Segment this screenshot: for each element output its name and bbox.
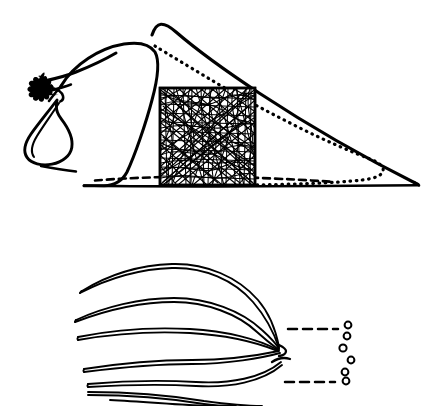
hatched-square	[160, 88, 255, 185]
bristle-tip	[75, 320, 76, 322]
figure-root	[0, 0, 442, 406]
figure-canvas	[0, 0, 442, 406]
figure-background	[0, 0, 442, 406]
